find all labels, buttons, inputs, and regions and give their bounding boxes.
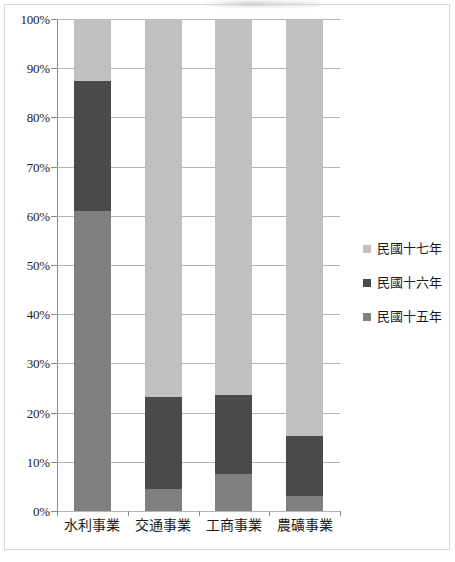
y-tick-label: 10% xyxy=(27,456,50,469)
bar-segment[interactable] xyxy=(215,19,252,395)
x-tick-label: 農礦事業 xyxy=(260,517,350,535)
bar-segment[interactable] xyxy=(145,19,182,397)
bar-column[interactable] xyxy=(145,19,182,511)
y-tick-mark xyxy=(51,314,57,315)
legend: 民國十七年民國十六年民國十五年 xyxy=(363,232,451,334)
bar-segment[interactable] xyxy=(286,496,323,511)
y-tick-mark xyxy=(51,413,57,414)
y-tick-label: 40% xyxy=(27,308,50,321)
bar-column[interactable] xyxy=(74,19,111,511)
legend-item[interactable]: 民國十六年 xyxy=(363,266,451,300)
legend-label: 民國十五年 xyxy=(377,310,442,324)
bar-column[interactable] xyxy=(286,19,323,511)
legend-label: 民國十七年 xyxy=(377,242,442,256)
legend-swatch-icon xyxy=(363,279,371,287)
x-tick-mark xyxy=(128,511,129,516)
legend-label: 民國十六年 xyxy=(377,276,442,290)
x-tick-mark xyxy=(57,511,58,516)
y-tick-mark xyxy=(51,363,57,364)
y-tick-mark xyxy=(51,117,57,118)
y-tick-label: 100% xyxy=(20,13,50,26)
y-tick-label: 80% xyxy=(27,111,50,124)
bar-segment[interactable] xyxy=(74,211,111,511)
legend-item[interactable]: 民國十七年 xyxy=(363,232,451,266)
y-tick-label: 50% xyxy=(27,259,50,272)
y-axis-tick-labels: 100%90%80%70%60%50%40%30%20%10%0% xyxy=(2,19,50,511)
x-tick-mark xyxy=(269,511,270,516)
bar-segment[interactable] xyxy=(145,397,182,489)
bar-column[interactable] xyxy=(215,19,252,511)
bar-segment[interactable] xyxy=(74,19,111,81)
y-tick-mark xyxy=(51,462,57,463)
bar-segment[interactable] xyxy=(286,19,323,436)
bar-segment[interactable] xyxy=(215,395,252,474)
chart-figure: 100%90%80%70%60%50%40%30%20%10%0% 水利事業交通… xyxy=(0,0,455,562)
y-tick-mark xyxy=(51,216,57,217)
x-tick-mark xyxy=(199,511,200,516)
y-tick-label: 70% xyxy=(27,161,50,174)
bar-segment[interactable] xyxy=(145,489,182,511)
legend-swatch-icon xyxy=(363,313,371,321)
legend-item[interactable]: 民國十五年 xyxy=(363,300,451,334)
y-tick-label: 30% xyxy=(27,357,50,370)
x-tick-mark xyxy=(340,511,341,516)
y-tick-mark xyxy=(51,68,57,69)
y-tick-label: 20% xyxy=(27,407,50,420)
y-tick-mark xyxy=(51,167,57,168)
y-tick-mark xyxy=(51,19,57,20)
bar-segment[interactable] xyxy=(215,474,252,511)
legend-swatch-icon xyxy=(363,245,371,253)
plot-area xyxy=(57,19,340,511)
y-tick-mark xyxy=(51,265,57,266)
y-tick-label: 90% xyxy=(27,62,50,75)
bar-segment[interactable] xyxy=(286,436,323,496)
bar-segment[interactable] xyxy=(74,81,111,211)
scan-artifact xyxy=(200,1,320,7)
y-tick-label: 60% xyxy=(27,210,50,223)
